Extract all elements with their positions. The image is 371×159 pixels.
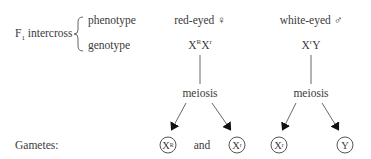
male-genotype: XrY [302,40,321,52]
female-phenotype: red-eyed ♀ [174,15,226,27]
brace [74,17,83,51]
cross-label: F1 intercross [15,28,73,40]
row-label-genotype: genotype [88,40,130,52]
gametes-label: Gametes: [15,140,58,152]
female-meiosis-label: meiosis [182,88,217,100]
row-label-phenotype: phenotype [88,15,136,27]
gamete-male-Xr: Xr [271,137,288,154]
male-phenotype: white-eyed ♂ [280,15,343,27]
gamete-female-Xr: Xr [229,137,246,154]
female-genotype: XRXr [188,40,212,52]
gamete-male-Y: Y [337,137,354,154]
male-meiosis-label: meiosis [293,88,328,100]
gamete-female-XR: XR [160,137,177,154]
connector-and: and [194,140,211,152]
